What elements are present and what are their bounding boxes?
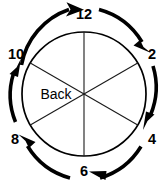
hour-label-4: 4 — [148, 131, 156, 147]
arc-2-to-4-path — [151, 66, 157, 115]
hour-label-10: 10 — [8, 46, 24, 62]
arc-6-to-8-arrowhead — [19, 135, 36, 149]
center-label-back: Back — [40, 86, 72, 102]
arc-4-to-6-arrowhead — [89, 171, 107, 180]
hour-label-6: 6 — [80, 163, 88, 179]
tire-rotation-diagram: 12 2 4 6 8 10 Back — [0, 0, 164, 180]
arc-8-to-10-path — [10, 74, 15, 123]
arc-8-to-10 — [10, 59, 22, 123]
hour-label-8: 8 — [11, 131, 19, 147]
hour-label-2: 2 — [148, 46, 156, 62]
arc-2-to-4-arrowhead — [143, 112, 155, 131]
hour-label-12: 12 — [76, 6, 92, 22]
